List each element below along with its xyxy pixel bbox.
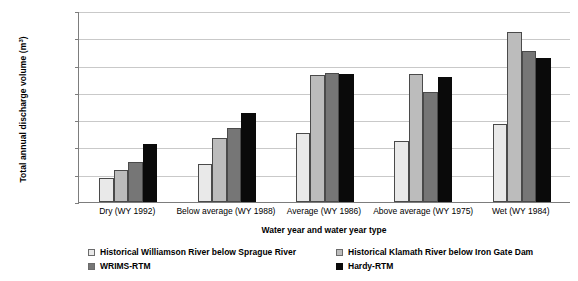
bar xyxy=(438,77,453,203)
bar-group xyxy=(276,12,374,202)
bar xyxy=(99,178,114,202)
x-axis-category-label: Wet (WY 1984) xyxy=(472,206,570,217)
legend-label: Hardy-RTM xyxy=(348,262,393,271)
bar xyxy=(522,51,537,202)
legend-label: WRIMS-RTM xyxy=(100,262,151,271)
bar-group xyxy=(374,12,472,202)
y-axis-tick xyxy=(75,203,79,204)
bar xyxy=(394,141,409,202)
bar-series-container xyxy=(79,12,570,202)
bar xyxy=(241,113,256,202)
bar-group xyxy=(473,12,571,202)
legend-item[interactable]: Historical Klamath River below Iron Gate… xyxy=(336,248,533,257)
x-axis-category-label: Average (WY 1986) xyxy=(275,206,373,217)
bar xyxy=(339,74,354,202)
bar xyxy=(493,124,508,202)
legend-label: Historical Klamath River below Iron Gate… xyxy=(348,248,533,257)
bar xyxy=(325,73,340,202)
x-axis-category-label: Dry (WY 1992) xyxy=(78,206,176,217)
bar xyxy=(409,74,424,202)
legend-swatch-icon xyxy=(88,249,95,256)
x-axis-category-label: Below average (WY 1988) xyxy=(176,206,274,217)
bar xyxy=(507,32,522,202)
bar xyxy=(423,92,438,203)
legend-swatch-icon xyxy=(336,249,343,256)
x-axis-category-labels: Dry (WY 1992)Below average (WY 1988)Aver… xyxy=(78,206,570,220)
legend-swatch-icon xyxy=(88,263,95,270)
bar xyxy=(310,75,325,202)
bar-group xyxy=(177,12,275,202)
y-axis-title-text: Total annual discharge volume (m xyxy=(18,43,28,183)
bar xyxy=(227,128,242,202)
bar xyxy=(114,170,129,202)
chart-legend: Historical Williamson River below Spragu… xyxy=(88,248,558,276)
y-axis-title: Total annual discharge volume (m3) xyxy=(18,9,29,209)
x-axis-category-label: Above average (WY 1975) xyxy=(373,206,471,217)
bar xyxy=(212,138,227,202)
y-axis-title-tail: ) xyxy=(18,36,28,39)
x-axis-title: Water year and water year type xyxy=(78,225,570,235)
bar xyxy=(128,162,143,202)
bar xyxy=(536,58,551,202)
legend-item[interactable]: Hardy-RTM xyxy=(336,262,393,271)
bar xyxy=(143,144,158,202)
legend-swatch-icon xyxy=(336,263,343,270)
legend-item[interactable]: Historical Williamson River below Spragu… xyxy=(88,248,296,257)
y-axis-title-exponent: 3 xyxy=(18,39,24,42)
bar xyxy=(198,164,213,202)
bar xyxy=(296,133,311,202)
legend-item[interactable]: WRIMS-RTM xyxy=(88,262,151,271)
legend-label: Historical Williamson River below Spragu… xyxy=(100,248,296,257)
bar-group xyxy=(79,12,177,202)
bar-chart: Total annual discharge volume (m3) 3,500… xyxy=(0,0,578,281)
plot-area xyxy=(78,12,570,203)
